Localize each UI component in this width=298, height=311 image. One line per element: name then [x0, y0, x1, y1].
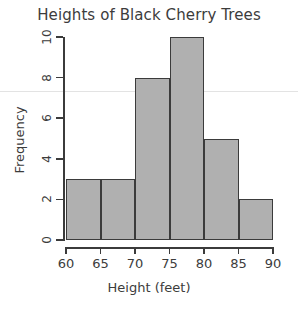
histogram-bar	[66, 179, 101, 240]
chart-title: Heights of Black Cherry Trees	[0, 6, 298, 24]
x-axis-title: Height (feet)	[0, 280, 298, 295]
x-axis-tick-label: 80	[189, 256, 219, 271]
x-axis-tick	[134, 247, 136, 254]
y-axis-tick-label: 2	[40, 196, 54, 204]
y-axis-tick-label: 8	[40, 74, 54, 82]
y-axis-tick-label: 6	[40, 114, 54, 122]
y-axis-tick-label: 10	[40, 29, 54, 44]
y-axis-tick-label-container: 6	[40, 111, 54, 125]
x-axis-tick	[238, 247, 240, 254]
y-axis-tick-label: 4	[40, 155, 54, 163]
y-axis-tick	[56, 158, 63, 160]
x-axis-tick	[65, 247, 67, 254]
y-axis-title-container: Frequency	[10, 60, 28, 220]
y-axis-tick-label-container: 0	[40, 233, 54, 247]
x-axis-tick-label: 60	[51, 256, 81, 271]
x-axis-tick	[272, 247, 274, 254]
plot-area	[66, 37, 273, 240]
y-axis-tick-label-container: 2	[40, 192, 54, 206]
y-axis-title: Frequency	[12, 106, 27, 173]
x-axis-tick-label: 85	[224, 256, 254, 271]
y-axis-tick	[56, 77, 63, 79]
y-axis-tick-label-container: 8	[40, 71, 54, 85]
histogram-bar	[135, 78, 170, 240]
y-axis-tick-label-container: 10	[40, 30, 54, 44]
y-axis-tick-label-container: 4	[40, 152, 54, 166]
y-axis-line	[63, 37, 65, 241]
y-axis-tick	[56, 239, 63, 241]
x-axis-tick	[203, 247, 205, 254]
histogram-bar	[204, 139, 239, 241]
y-axis-tick	[56, 36, 63, 38]
x-axis-tick-label: 90	[258, 256, 288, 271]
histogram-bar	[170, 37, 205, 240]
y-axis-tick-label: 0	[40, 236, 54, 244]
x-axis-tick-label: 75	[155, 256, 185, 271]
y-axis-tick	[56, 199, 63, 201]
histogram-figure: Heights of Black Cherry Trees Frequency …	[0, 0, 298, 311]
x-axis-tick-label: 70	[120, 256, 150, 271]
histogram-bar	[101, 179, 136, 240]
x-axis-tick	[100, 247, 102, 254]
histogram-bar	[239, 199, 274, 240]
y-axis-tick	[56, 117, 63, 119]
x-axis-tick	[169, 247, 171, 254]
x-axis-tick-label: 65	[86, 256, 116, 271]
